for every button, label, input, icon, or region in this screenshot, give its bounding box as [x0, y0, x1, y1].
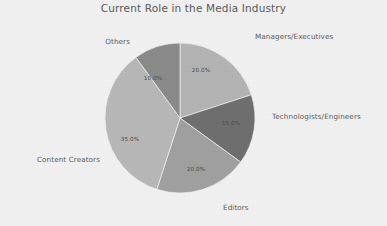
- pie-slice-category-label: Others: [105, 37, 130, 46]
- pie-slice-percent-label: 35.0%: [121, 136, 139, 142]
- pie-wedge-group: [105, 43, 255, 193]
- pie-slice-percent-label: 20.0%: [192, 67, 210, 73]
- pie-slice-category-label: Content Creators: [37, 155, 100, 164]
- pie-chart-screenshot: Current Role in the Media Industry 20.0%…: [0, 0, 387, 226]
- pie-slice-category-label: Editors: [223, 203, 249, 212]
- pie-slice-category-label: Technologists/Engineers: [272, 112, 361, 121]
- pie-slice-category-label: Managers/Executives: [255, 32, 333, 41]
- pie-slice-percent-label: 20.0%: [187, 166, 205, 172]
- pie-slice-percent-label: 10.0%: [144, 75, 162, 81]
- pie-slice-percent-label: 15.0%: [222, 120, 240, 126]
